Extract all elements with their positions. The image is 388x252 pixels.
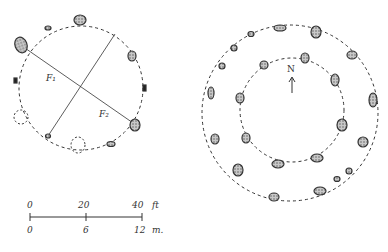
- north-label: N: [287, 64, 295, 74]
- scale-bar: [30, 213, 142, 221]
- scale-m-12: 12: [134, 225, 145, 235]
- scale-m-6: 6: [83, 225, 89, 235]
- left-stone-circle: [13, 15, 146, 153]
- stone-circle-plans: [0, 0, 388, 252]
- scale-ft-unit: ft: [152, 200, 159, 210]
- scale-m-0: 0: [27, 225, 33, 235]
- scale-m-unit: m.: [152, 225, 163, 235]
- scale-ft-40: 40: [132, 200, 143, 210]
- right-stone-circles: [202, 25, 378, 201]
- scale-ft-20: 20: [78, 200, 89, 210]
- f1-label: F₁: [46, 73, 56, 83]
- scale-ft-0: 0: [27, 200, 33, 210]
- f2-label: F₂: [99, 109, 109, 119]
